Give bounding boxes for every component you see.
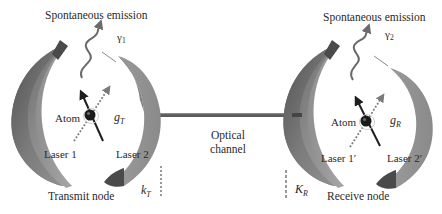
transmit-node: Spontaneous emission γ1 Atom gT Laser 1 …	[11, 9, 161, 202]
receive-atom-label: Atom	[331, 116, 357, 128]
transmit-node-label: Transmit node	[48, 190, 114, 202]
receive-atom-icon	[360, 115, 375, 130]
transmit-laser2-label: Laser 2	[116, 148, 149, 160]
optical-channel-fiber	[158, 113, 298, 117]
transmit-emission-label: Spontaneous emission	[45, 9, 148, 22]
cavity-qed-network-diagram: Spontaneous emission γ1 Atom gT Laser 1 …	[0, 0, 442, 214]
receive-node-label: Receive node	[327, 190, 389, 202]
receive-mirror-left-icon	[283, 40, 344, 188]
receive-coupling-label: gR	[390, 113, 401, 129]
transmit-emission-wave-icon	[81, 24, 100, 78]
receive-mirror-right-icon	[374, 56, 433, 189]
receive-emission-label: Spontaneous emission	[323, 11, 426, 24]
receive-emission-wave-icon	[351, 28, 368, 80]
transmit-atom-icon	[84, 109, 99, 124]
receive-laser1-label: Laser 1′	[321, 152, 356, 164]
receive-decay-label: KR	[294, 182, 308, 198]
transmit-atom-label: Atom	[55, 112, 81, 124]
transmit-coupling-label: gT	[114, 110, 125, 126]
transmit-gamma-label: γ1	[116, 31, 126, 45]
transmit-mirror-right-icon	[102, 52, 161, 187]
transmit-decay-label: kT	[141, 183, 151, 199]
receive-node: Spontaneous emission γ2 Atom gR Laser 1′…	[283, 11, 432, 202]
optical-channel-label-line1: Optical	[211, 129, 245, 142]
receive-laser2-label: Laser 2′	[387, 152, 422, 164]
receive-gamma-label: γ2	[384, 28, 394, 42]
optical-channel-label-line2: channel	[210, 143, 246, 155]
transmit-laser1-label: Laser 1	[44, 148, 77, 160]
